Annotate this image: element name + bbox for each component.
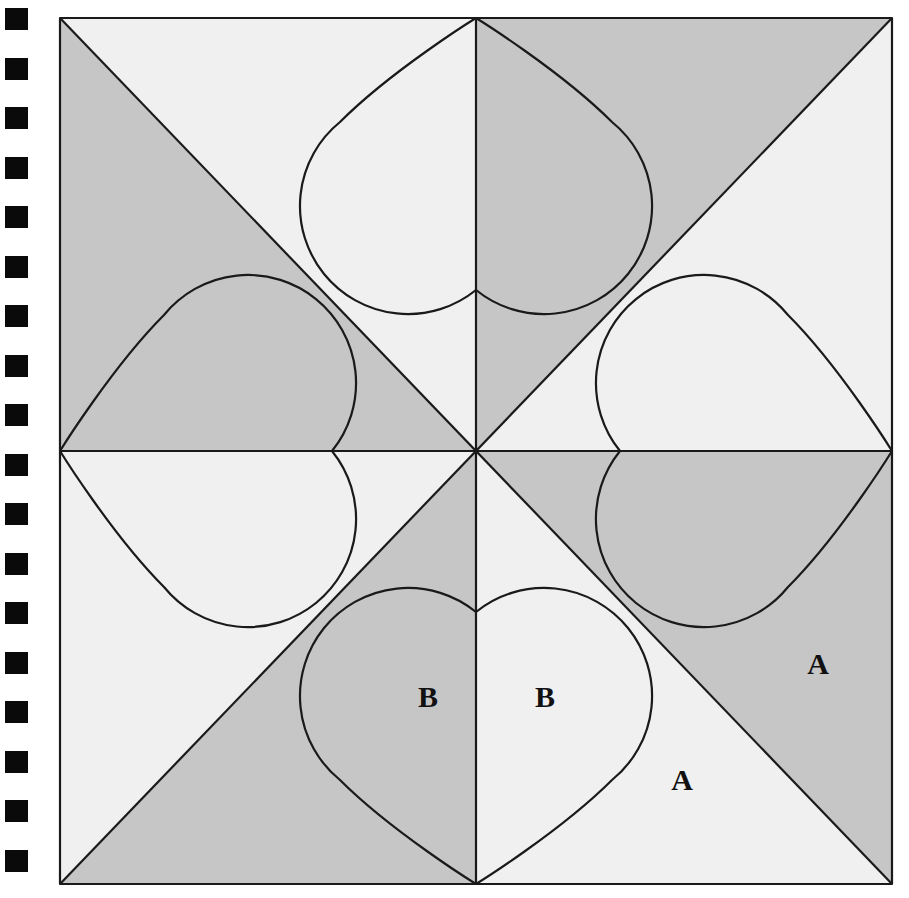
punch-hole-mark: [5, 800, 28, 822]
punch-hole-mark: [5, 107, 28, 129]
label-b-left: B: [418, 680, 438, 713]
punch-hole-mark: [5, 305, 28, 327]
punch-hole-mark: [5, 8, 28, 30]
punch-hole-mark: [5, 701, 28, 723]
label-a-upper: A: [807, 647, 829, 680]
geometric-figure: A A B B: [0, 0, 909, 898]
punch-hole-mark: [5, 58, 28, 80]
label-a-lower: A: [671, 763, 693, 796]
label-b-right: B: [535, 680, 555, 713]
punch-hole-mark: [5, 503, 28, 525]
punch-hole-mark: [5, 454, 28, 476]
punch-hole-mark: [5, 355, 28, 377]
punch-hole-mark: [5, 553, 28, 575]
punch-hole-mark: [5, 404, 28, 426]
punch-hole-mark: [5, 751, 28, 773]
figure-strokes: [60, 18, 892, 884]
figure-root: A A B B: [0, 0, 909, 898]
punch-hole-mark: [5, 206, 28, 228]
punch-hole-mark: [5, 652, 28, 674]
punch-hole-mark: [5, 850, 28, 872]
punch-hole-mark: [5, 157, 28, 179]
punch-hole-mark: [5, 256, 28, 278]
punch-hole-mark: [5, 602, 28, 624]
